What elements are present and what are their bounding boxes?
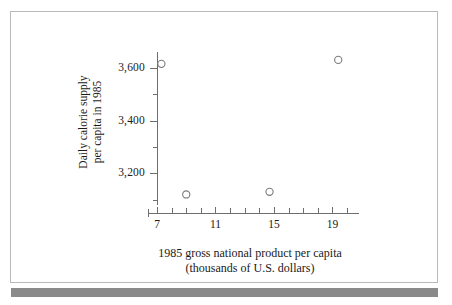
x-axis-title: 1985 gross national product per capita (… <box>100 246 400 276</box>
x-tick-label: 15 <box>259 218 289 230</box>
bottom-gray-band <box>11 288 438 297</box>
x-axis-title-line-1: 1985 gross national product per capita <box>100 246 400 261</box>
x-axis-title-line-2: (thousands of U.S. dollars) <box>100 261 400 276</box>
y-axis-title-line-2: per capita in 1985 <box>90 48 238 196</box>
figure-root: 3,2003,4003,600 7111519 Daily calorie su… <box>0 0 452 305</box>
x-tick-label: 11 <box>200 218 230 230</box>
y-axis-title: Daily calorie supply per capita in 1985 <box>76 48 106 196</box>
x-tick-label: 7 <box>142 218 172 230</box>
x-tick-label: 19 <box>317 218 347 230</box>
